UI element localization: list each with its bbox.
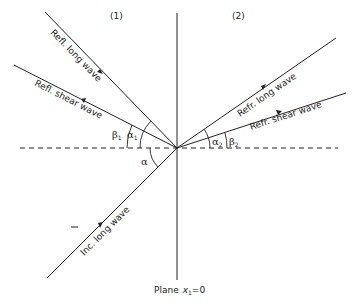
- incident-long-wave-ray: [47, 148, 177, 278]
- alpha2-symbol: α2: [212, 136, 223, 148]
- alpha1-symbol: α1: [127, 129, 138, 141]
- region-1-label: (1): [110, 11, 123, 21]
- reflected-long-label: Refl. long wave: [49, 27, 104, 84]
- beta2-symbol: β2: [229, 136, 239, 148]
- reflected-long-wave-ray: [45, 12, 177, 148]
- angle-arc-alpha1: [140, 121, 151, 148]
- wave-diagram: (1) (2) Refl. long wave Refl. shear wave…: [0, 0, 353, 305]
- incident-long-label: Inc. long wave: [78, 204, 131, 257]
- refracted-long-wave-ray: [177, 38, 336, 148]
- angle-arc-alpha: [150, 148, 158, 167]
- plane-label: Planex1=0: [154, 285, 205, 296]
- alpha-symbol: α: [141, 156, 148, 167]
- reflected-shear-label: Refl. shear wave: [33, 78, 104, 121]
- beta1-symbol: β1: [112, 129, 122, 141]
- angle-arc-beta2: [225, 133, 227, 148]
- region-2-label: (2): [232, 11, 245, 21]
